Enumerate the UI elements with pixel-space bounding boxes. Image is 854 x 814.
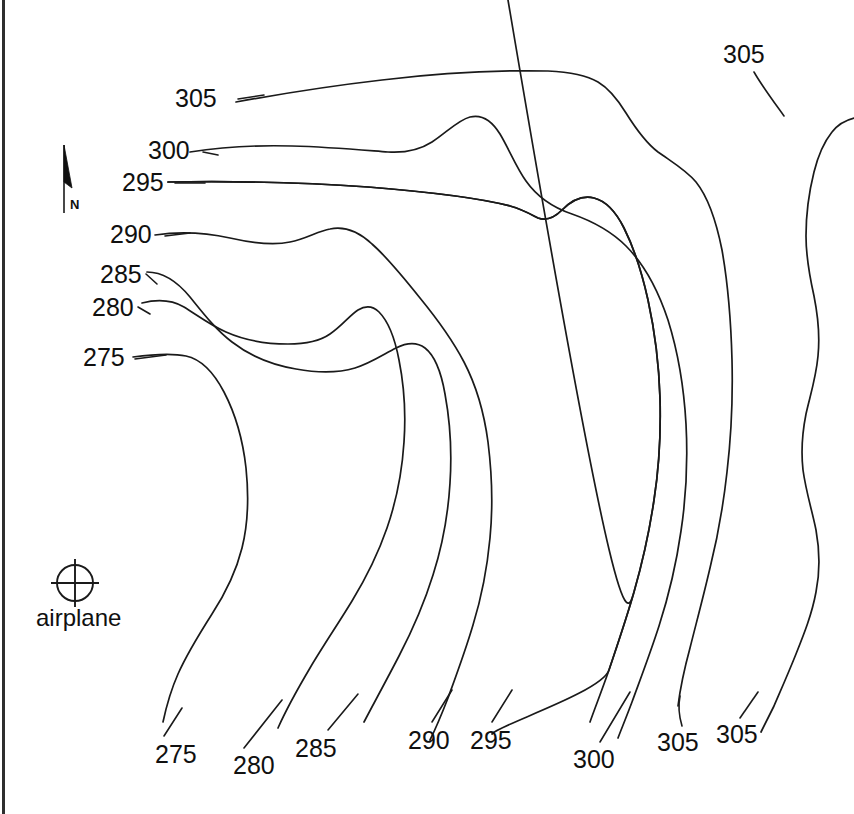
contour-label-left-280: 280 [92,295,134,320]
contour-line-285 [147,272,451,722]
crosshair-circle-icon [51,559,99,607]
contour-label-left-290: 290 [110,222,152,247]
contour-map-canvas [0,0,854,814]
north-arrow-label: N [70,198,79,211]
contour-line-295-main [168,182,660,722]
contour-label-bottom-280: 280 [233,753,275,778]
leader-line-left-280 [138,307,150,314]
leader-line-left-285 [146,274,157,284]
airplane-marker-label: airplane [36,606,121,630]
contour-label-left-285: 285 [100,262,142,287]
leader-line-bottom-285 [328,694,358,730]
contour-label-left-275: 275 [83,345,125,370]
leader-line-bottom-280 [244,700,282,748]
leader-line-bottom-290 [432,690,452,722]
contour-map-figure: 305 300 295 290 285 280 275 305 275 280 … [0,0,854,814]
leader-line-bottom-295 [492,690,512,722]
contour-label-bottom-290: 290 [408,728,450,753]
leader-line-left-300 [203,152,218,155]
contour-label-left-295: 295 [122,170,164,195]
contour-label-bottom-285: 285 [295,736,337,761]
contour-line-290 [155,228,492,740]
page-edge-artifact [2,0,5,814]
contour-label-bottom-295: 295 [470,728,512,753]
contour-label-left-300: 300 [148,138,190,163]
contour-label-bottom-305a: 305 [657,730,699,755]
contour-line-305-outer [761,118,854,732]
contour-line-275 [133,354,248,722]
contour-label-bottom-275: 275 [155,742,197,767]
contour-label-left-305: 305 [175,86,217,111]
contour-label-bottom-305b: 305 [716,722,758,747]
contour-label-right-305: 305 [723,42,765,67]
leader-line-bottom-305b [740,692,758,718]
contour-label-bottom-300: 300 [573,747,615,772]
leader-line-right-305 [754,72,784,116]
leader-line-bottom-275 [164,708,182,736]
contour-line-305-inner [236,71,732,706]
leader-line-bottom-305a [679,696,682,726]
